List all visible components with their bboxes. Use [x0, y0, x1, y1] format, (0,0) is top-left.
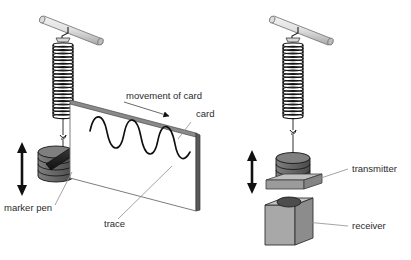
label-receiver: receiver: [352, 220, 386, 231]
block-front: [265, 205, 295, 245]
physics-diagram-figure: movement of card card marker pen trace: [0, 0, 411, 260]
label-card: card: [196, 108, 214, 119]
label-marker-pen: marker pen: [4, 202, 52, 213]
plate-front: [266, 180, 304, 189]
bracket-plate: [56, 38, 70, 42]
label-transmitter: transmitter: [352, 163, 397, 174]
spring-right: [283, 42, 303, 126]
label-trace: trace: [104, 218, 125, 229]
receiver-block: [265, 197, 313, 245]
diagram-canvas: movement of card card marker pen trace: [0, 0, 411, 260]
bracket-plate-right: [286, 38, 300, 42]
label-movement-of-card: movement of card: [126, 90, 202, 101]
mass-top-disc-right: [276, 153, 310, 164]
card-right-side: [196, 133, 200, 211]
receiver-hole: [277, 197, 301, 207]
